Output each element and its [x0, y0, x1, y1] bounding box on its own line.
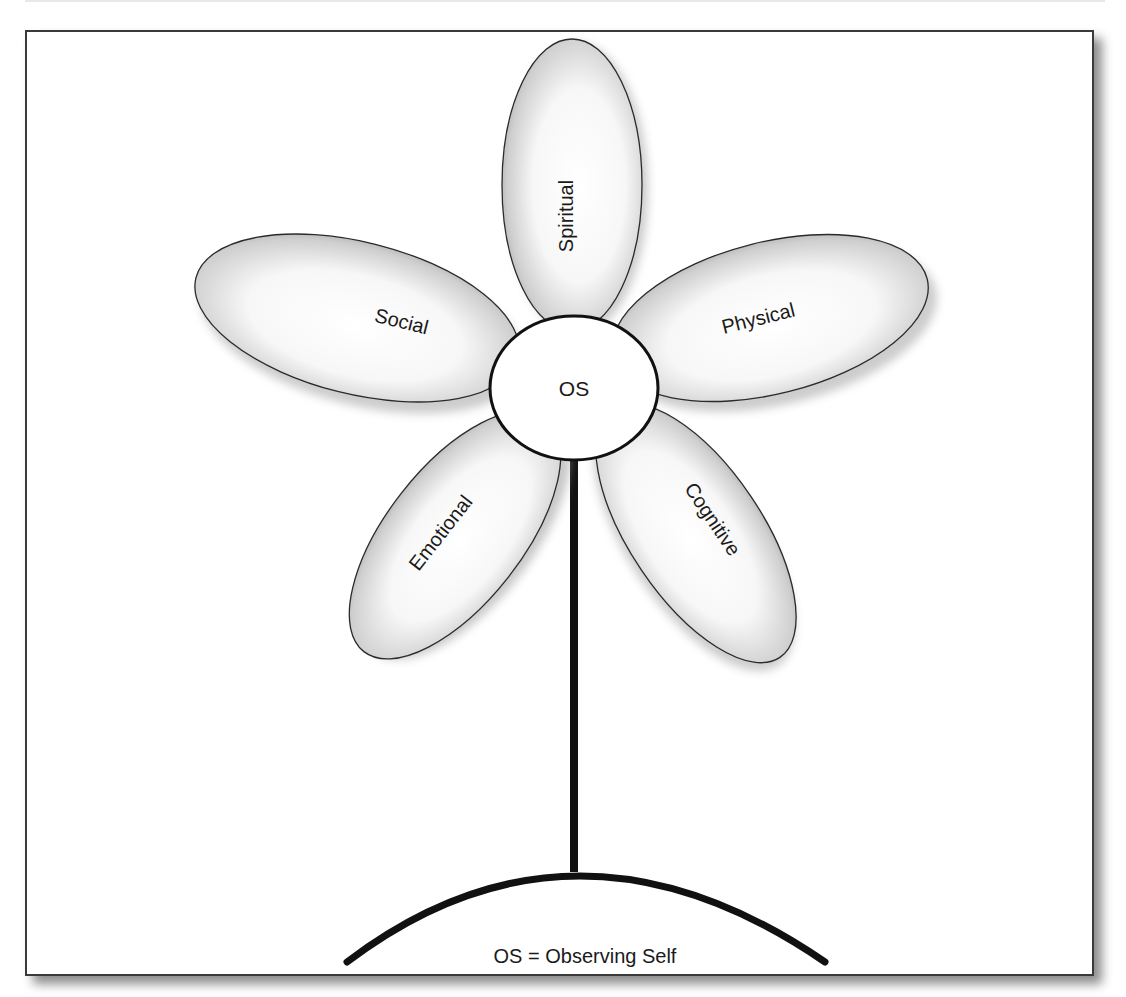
petal-social [175, 204, 544, 443]
center-label: OS [559, 377, 589, 400]
observing-self-flower-diagram: OS Spiritual Physical Cognitive Emotiona… [0, 0, 1126, 997]
caption: OS = Observing Self [494, 945, 677, 967]
petal-label-spiritual: Spiritual [555, 180, 577, 252]
